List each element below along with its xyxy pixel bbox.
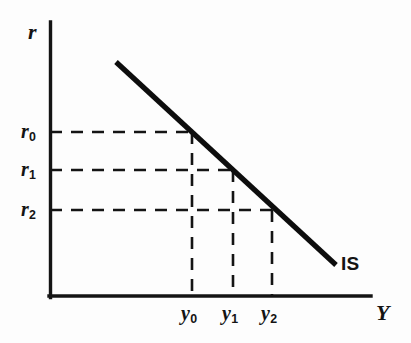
y-tick-r0-subscript: 0 xyxy=(29,130,36,144)
y-tick-label-r1: r1 xyxy=(21,159,36,179)
y-tick-r2-subscript: 2 xyxy=(29,208,36,222)
is-curve-plot xyxy=(0,0,411,343)
is-curve-label: IS xyxy=(341,253,359,275)
x-tick-y2-subscript: 2 xyxy=(270,312,277,326)
y-tick-label-r0: r0 xyxy=(21,121,36,141)
vertical-guide-lines xyxy=(192,132,272,296)
x-tick-y1-base: y xyxy=(222,302,231,324)
horizontal-guide-lines xyxy=(50,132,275,210)
x-tick-y0-subscript: 0 xyxy=(190,312,197,326)
x-tick-y0-base: y xyxy=(181,302,190,324)
y-tick-r1-base: r xyxy=(21,158,29,180)
x-tick-label-y2: y2 xyxy=(261,303,277,323)
is-curve-figure: r Y r0 r1 r2 y0 y1 y2 IS xyxy=(0,0,411,343)
y-tick-r2-base: r xyxy=(21,198,29,220)
y-tick-label-r2: r2 xyxy=(21,199,36,219)
x-tick-label-y1: y1 xyxy=(222,303,238,323)
x-axis-label: Y xyxy=(376,302,389,324)
y-tick-r0-base: r xyxy=(21,120,29,142)
is-curve-line xyxy=(116,62,336,265)
x-tick-label-y0: y0 xyxy=(181,303,197,323)
y-tick-r1-subscript: 1 xyxy=(29,168,36,182)
x-tick-y2-base: y xyxy=(261,302,270,324)
x-tick-y1-subscript: 1 xyxy=(231,312,238,326)
y-axis-label: r xyxy=(28,21,37,43)
